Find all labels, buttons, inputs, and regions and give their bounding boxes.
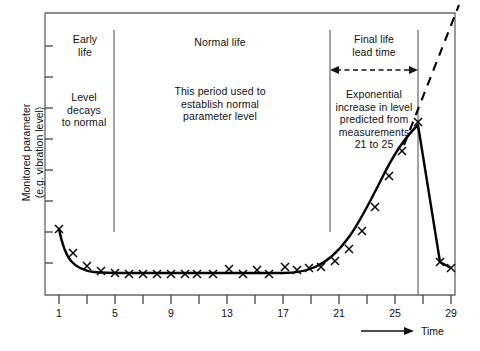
xtick-label-25: 25: [380, 307, 410, 319]
y-axis-label-line2: (e.g. vibration level): [32, 107, 44, 199]
lead-time-arrow: [330, 66, 418, 74]
xtick-label-1: 1: [44, 307, 74, 319]
chart-figure: Monitored parameter(e.g. vibration level…: [0, 0, 480, 351]
annotation-exponential: Exponential increase in level predicted …: [328, 88, 420, 151]
y-axis-label: Monitored parameter(e.g. vibration level…: [20, 83, 45, 223]
annotation-early-life: Early life: [59, 33, 111, 58]
annotation-final-life: Final life lead time: [333, 33, 415, 58]
xtick-label-5: 5: [100, 307, 130, 319]
annotation-level-decays: Level decays to normal: [55, 91, 113, 129]
xtick-label-17: 17: [268, 307, 298, 319]
xtick-label-13: 13: [212, 307, 242, 319]
y-axis-label-line1: Monitored parameter: [20, 104, 32, 201]
annotation-normal-life: Normal life: [160, 36, 280, 49]
time-arrow: [361, 327, 414, 335]
time-axis-label: Time: [421, 325, 444, 337]
xtick-label-9: 9: [156, 307, 186, 319]
xtick-label-29: 29: [436, 307, 466, 319]
y-axis-ticks: [45, 46, 53, 263]
x-axis-ticks: [59, 295, 451, 304]
xtick-label-21: 21: [324, 307, 354, 319]
annotation-period-used: This period used to establish normal par…: [135, 85, 305, 123]
